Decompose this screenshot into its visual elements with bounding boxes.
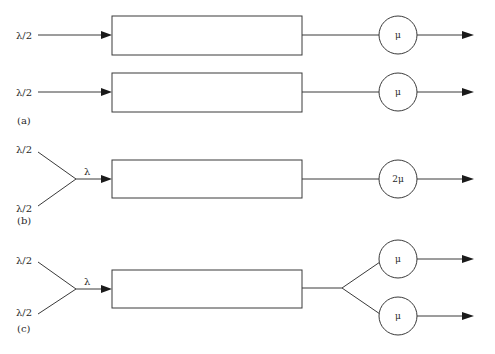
queueing-diagram: λ/2 μ λ/2 μ (a) λ/2 λ/2 λ (0, 0, 495, 354)
panel-caption: (a) (17, 115, 31, 126)
queue-buffer-box (112, 16, 302, 55)
arrow-head-icon (462, 312, 474, 320)
panel-caption: (b) (17, 215, 31, 226)
arrival-rate-label: λ/2 (16, 255, 32, 266)
merged-rate-label: λ (84, 166, 91, 177)
arrival-rate-label: λ/2 (16, 144, 32, 155)
arrow-head-icon (101, 31, 112, 39)
arrow-head-icon (462, 31, 474, 39)
service-rate-label: μ (395, 87, 401, 97)
queue-buffer-box (112, 270, 302, 308)
service-rate-label: μ (395, 254, 401, 264)
arrow-head-icon (462, 175, 474, 183)
queue-buffer-box (112, 73, 302, 112)
merge-line-bottom (38, 179, 76, 206)
panel-a-queue-1: λ/2 μ (16, 16, 474, 55)
service-rate-label: 2μ (392, 174, 404, 184)
merge-line-bottom (38, 289, 76, 314)
merged-rate-label: λ (84, 276, 91, 287)
split-line-top (342, 262, 380, 288)
arrow-head-icon (101, 285, 112, 293)
arrow-head-icon (462, 255, 474, 263)
service-rate-label: μ (395, 30, 401, 40)
arrival-rate-label: λ/2 (16, 203, 32, 214)
panel-a: λ/2 μ λ/2 μ (a) (16, 16, 474, 126)
arrival-rate-label: λ/2 (16, 307, 32, 318)
arrow-head-icon (462, 88, 474, 96)
split-line-bottom (342, 288, 380, 314)
arrow-head-icon (101, 88, 112, 96)
merge-line-top (38, 262, 76, 289)
panel-c: λ/2 λ/2 λ μ μ (c) (16, 240, 474, 335)
panel-a-queue-2: λ/2 μ (16, 73, 474, 112)
service-rate-label: μ (395, 311, 401, 321)
panel-b: λ/2 λ/2 λ 2μ (b) (16, 144, 474, 226)
queue-buffer-box (112, 160, 302, 198)
arrow-head-icon (101, 175, 112, 183)
panel-caption: (c) (17, 323, 31, 334)
arrival-rate-label: λ/2 (16, 30, 32, 41)
merge-line-top (38, 152, 76, 179)
arrival-rate-label: λ/2 (16, 87, 32, 98)
